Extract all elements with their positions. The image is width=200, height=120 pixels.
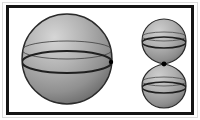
diagram-svg	[0, 0, 200, 120]
figure-root	[0, 0, 200, 120]
small-sphere-upper-body	[142, 19, 186, 64]
small-sphere-lower	[142, 64, 186, 108]
diagram-canvas	[0, 0, 200, 120]
large-sphere	[22, 14, 113, 104]
tangency-point-marker	[109, 60, 113, 64]
small-sphere-upper	[142, 19, 186, 64]
sphere-contact-point	[162, 62, 167, 67]
